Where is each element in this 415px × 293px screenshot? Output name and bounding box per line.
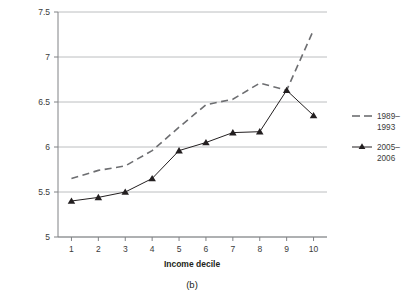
y-tick-label: 5 <box>45 232 50 242</box>
y-tick-label: 5.5 <box>38 187 50 197</box>
legend-label-1989-1993-line2: 1993 <box>377 123 396 132</box>
x-tick-label: 4 <box>150 244 155 254</box>
legend-label-2005-2006-line1: 2005– <box>377 143 400 152</box>
x-tick-label: 5 <box>177 244 182 254</box>
x-tick-label: 10 <box>309 244 319 254</box>
y-tick-label: 6 <box>45 142 50 152</box>
x-tick-label: 8 <box>257 244 262 254</box>
figure-container: 55.566.577.5 12345678910 Income decile 1… <box>0 0 415 293</box>
legend-label-1989-1993-line1: 1989– <box>377 112 400 121</box>
x-tick-label: 3 <box>123 244 128 254</box>
x-tick-label: 2 <box>96 244 101 254</box>
y-tick-label: 6.5 <box>38 97 50 107</box>
x-tick-label: 9 <box>284 244 289 254</box>
y-tick-label: 7.5 <box>38 7 50 17</box>
x-axis-title: Income decile <box>164 259 220 269</box>
x-tick-label: 1 <box>69 244 74 254</box>
x-tick-label: 7 <box>230 244 235 254</box>
y-tick-label: 7 <box>45 52 50 62</box>
line-chart: 55.566.577.5 12345678910 Income decile 1… <box>0 0 415 293</box>
figure-caption: (b) <box>186 279 198 290</box>
x-tick-label: 6 <box>204 244 209 254</box>
legend-label-2005-2006-line2: 2006 <box>377 154 396 163</box>
